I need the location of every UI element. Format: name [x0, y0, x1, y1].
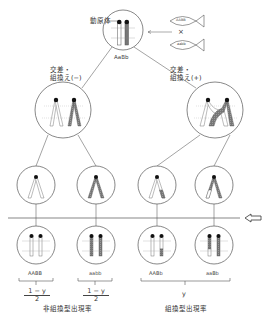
bracket-recombinant [141, 278, 230, 285]
meiosis-cell-crossover [187, 82, 243, 138]
fish-upper-genotype: AABB [176, 19, 186, 23]
gamete-genotype-3: AABb [149, 271, 163, 276]
fraction-non-recombinant-1: 1 − y 2 [24, 288, 50, 303]
branch-label-no-crossover: 交差・ 組換え(−) [50, 66, 82, 82]
meiosis2-cell-1 [17, 166, 55, 204]
cross-symbol: × [178, 29, 184, 36]
parent-cell [103, 10, 143, 50]
parent-genotype-label: AaBb [114, 55, 128, 61]
gamete-cell-aabb-4 [195, 226, 233, 264]
branch-label-crossover: 交差・ 組換え(+) [170, 66, 202, 82]
fish-icon-aabb-lower [170, 39, 204, 51]
gamete-cell-aabb-2 [77, 226, 115, 264]
branch-label-line1: 交差・ [50, 66, 71, 74]
fraction-non-recombinant-2: 1 − y 2 [83, 288, 109, 303]
hollow-arrow-icon [245, 214, 261, 222]
fish-lower-genotype: aabb [177, 43, 186, 47]
fraction-denominator: 2 [24, 296, 50, 303]
bracket-non-recombinant-2 [78, 278, 112, 285]
gamete-genotype-2: aabb [89, 271, 101, 276]
branch-label-line2: 組換え(−) [50, 74, 82, 82]
recombinant-fraction: y [182, 291, 186, 298]
branch-label-line1: 交差・ [170, 66, 191, 74]
branch-label-line2: 組換え(+) [170, 74, 202, 82]
meiosis-recombination-diagram [0, 0, 271, 325]
meiosis-cell-no-crossover [35, 82, 91, 138]
meiosis2-cell-2 [77, 166, 115, 204]
meiosis2-cell-3 [138, 166, 176, 204]
bracket-non-recombinant-1 [19, 278, 53, 285]
gamete-cell-aabb-1 [17, 226, 55, 264]
fraction-denominator: 2 [83, 296, 109, 303]
caption-non-recombinant: 非組換型出現率 [43, 306, 92, 313]
caption-recombinant: 組換型出現率 [165, 306, 207, 313]
centromere-label: 動原体 [90, 18, 111, 25]
gamete-cell-aabb-3 [138, 226, 176, 264]
gamete-genotype-1: AABB [28, 271, 42, 276]
gamete-genotype-4: aaBb [206, 271, 219, 276]
meiosis2-cell-4 [195, 166, 233, 204]
cross-arrow [148, 31, 172, 34]
